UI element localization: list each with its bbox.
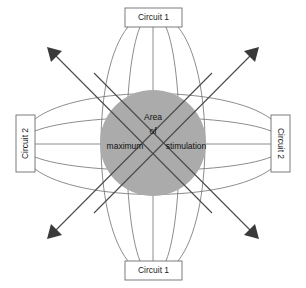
diagram-canvas: Circuit 1 Circuit 1 Circuit 2 Circuit 2 …	[0, 0, 306, 288]
circuit-2-right-label: Circuit 2	[276, 128, 286, 159]
center-label-area: Area	[144, 112, 162, 122]
circuit-2-right[interactable]: Circuit 2	[271, 115, 290, 172]
circuit-1-top-label: Circuit 1	[138, 12, 169, 22]
circuit-1-bottom-label: Circuit 1	[138, 265, 169, 275]
center-label-of: of	[149, 126, 157, 136]
circuit-1-bottom[interactable]: Circuit 1	[125, 261, 182, 280]
circuit-1-top[interactable]: Circuit 1	[125, 8, 182, 27]
center-label-maximum: maximum	[107, 141, 144, 151]
circuit-2-left-label: Circuit 2	[20, 128, 30, 159]
circuit-2-left[interactable]: Circuit 2	[16, 115, 35, 172]
diagram-root: Circuit 1 Circuit 1 Circuit 2 Circuit 2 …	[0, 0, 306, 288]
center-label-stimulation: stimulation	[166, 141, 207, 151]
